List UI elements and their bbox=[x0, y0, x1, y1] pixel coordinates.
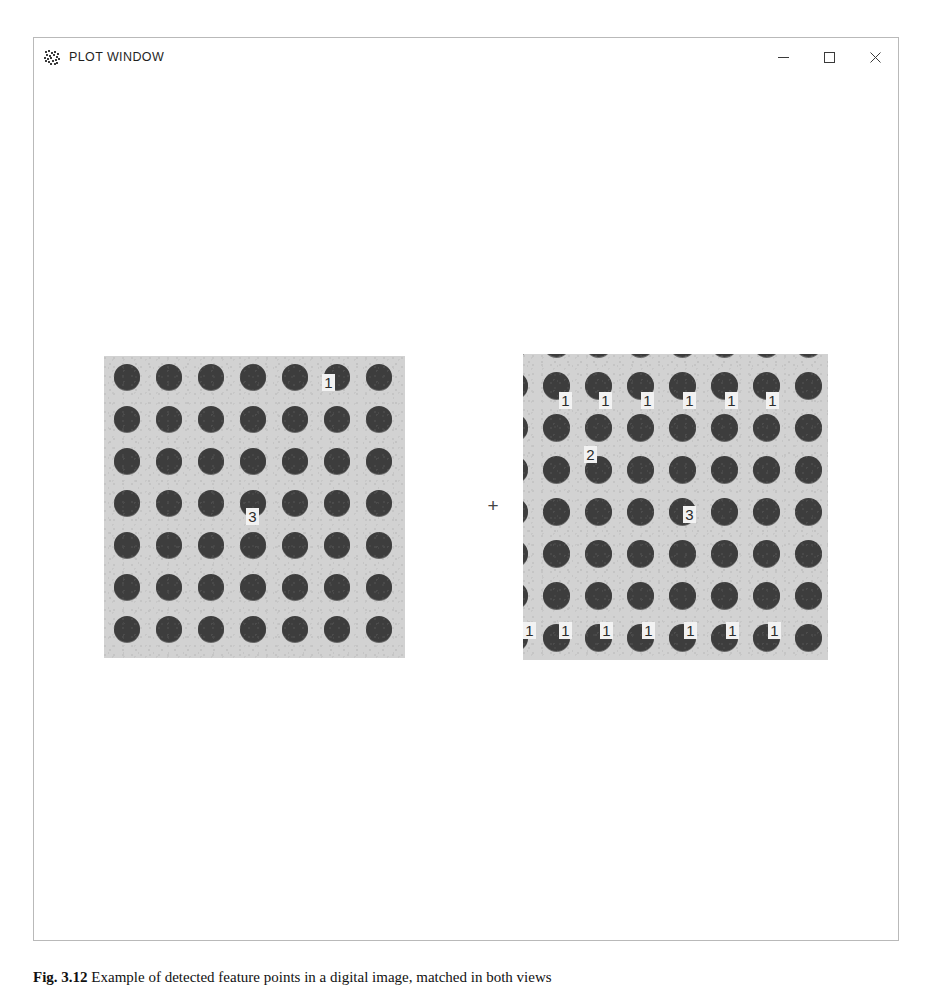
grid-dot bbox=[366, 532, 392, 558]
grid-dot bbox=[753, 582, 780, 609]
grid-dot bbox=[198, 574, 224, 600]
feature-marker: 1 bbox=[642, 622, 655, 639]
grid-dot bbox=[156, 616, 182, 642]
grid-dot bbox=[114, 616, 140, 642]
grid-dot bbox=[240, 406, 266, 432]
window-titlebar[interactable]: PLOT WINDOW bbox=[34, 38, 898, 76]
grid-dot bbox=[543, 414, 570, 441]
grid-dot bbox=[282, 574, 308, 600]
figure-number: Fig. 3.12 bbox=[33, 969, 88, 985]
grid-dot bbox=[282, 532, 308, 558]
grid-dot bbox=[156, 574, 182, 600]
figure-caption-text: Example of detected feature points in a … bbox=[91, 969, 551, 985]
grid-dot bbox=[585, 354, 612, 357]
feature-marker: 1 bbox=[322, 374, 335, 391]
feature-marker: 1 bbox=[559, 622, 572, 639]
grid-dot bbox=[753, 414, 780, 441]
grid-dot bbox=[366, 490, 392, 516]
reference-image-panel[interactable]: 13 bbox=[104, 356, 405, 658]
grid-dot bbox=[669, 540, 696, 567]
grid-dot bbox=[753, 498, 780, 525]
grid-dot bbox=[753, 456, 780, 483]
grid-dot bbox=[795, 414, 822, 441]
grid-dot bbox=[627, 498, 654, 525]
grid-dot bbox=[240, 574, 266, 600]
grid-dot bbox=[585, 582, 612, 609]
grid-dot bbox=[324, 406, 350, 432]
feature-marker: 1 bbox=[599, 392, 612, 409]
grid-dot bbox=[198, 448, 224, 474]
grid-dot bbox=[240, 364, 266, 390]
grid-dot bbox=[366, 364, 392, 390]
grid-dot bbox=[585, 540, 612, 567]
grid-dot bbox=[240, 532, 266, 558]
window-title: PLOT WINDOW bbox=[69, 50, 164, 64]
grid-dot bbox=[282, 364, 308, 390]
grid-dot bbox=[240, 448, 266, 474]
grid-dot bbox=[795, 582, 822, 609]
grid-dot bbox=[324, 490, 350, 516]
dot-grid-left bbox=[104, 356, 405, 658]
minimize-button[interactable] bbox=[760, 38, 806, 76]
grid-dot bbox=[543, 354, 570, 357]
grid-dot bbox=[324, 532, 350, 558]
grid-dot bbox=[366, 448, 392, 474]
grid-dot bbox=[627, 414, 654, 441]
close-button[interactable] bbox=[852, 38, 898, 76]
grid-dot bbox=[669, 354, 696, 357]
grid-dot bbox=[585, 498, 612, 525]
grid-dot bbox=[156, 532, 182, 558]
feature-marker: 3 bbox=[683, 506, 696, 523]
grid-dot bbox=[627, 456, 654, 483]
feature-marker: 3 bbox=[246, 508, 259, 525]
feature-marker: 1 bbox=[559, 392, 572, 409]
grid-dot bbox=[711, 456, 738, 483]
grid-dot bbox=[114, 490, 140, 516]
grid-dot bbox=[795, 372, 822, 399]
maximize-button[interactable] bbox=[806, 38, 852, 76]
grid-dot bbox=[282, 616, 308, 642]
grid-dot bbox=[114, 364, 140, 390]
grid-dot bbox=[523, 354, 528, 357]
grid-dot bbox=[711, 582, 738, 609]
window-controls bbox=[760, 38, 898, 76]
grid-dot bbox=[114, 532, 140, 558]
grid-dot bbox=[711, 498, 738, 525]
feature-marker: 1 bbox=[523, 622, 536, 639]
grid-dot bbox=[156, 490, 182, 516]
grid-dot bbox=[753, 540, 780, 567]
grid-dot bbox=[366, 406, 392, 432]
grid-dot bbox=[795, 498, 822, 525]
grid-dot bbox=[627, 582, 654, 609]
grid-dot bbox=[795, 456, 822, 483]
grid-dot bbox=[198, 364, 224, 390]
grid-dot bbox=[627, 540, 654, 567]
grid-dot bbox=[669, 582, 696, 609]
feature-marker: 1 bbox=[600, 622, 613, 639]
grid-dot bbox=[324, 448, 350, 474]
feature-marker: 2 bbox=[584, 446, 597, 463]
grid-dot bbox=[627, 354, 654, 357]
target-image-panel[interactable]: 111111231111111 bbox=[523, 354, 828, 660]
feature-marker: 1 bbox=[726, 622, 739, 639]
grid-dot bbox=[711, 354, 738, 357]
grid-dot bbox=[282, 448, 308, 474]
grid-dot bbox=[669, 456, 696, 483]
feature-marker: 1 bbox=[641, 392, 654, 409]
grid-dot bbox=[366, 616, 392, 642]
grid-dot bbox=[543, 498, 570, 525]
grid-dot bbox=[711, 540, 738, 567]
grid-dot bbox=[795, 540, 822, 567]
screenshot-root: PLOT WINDOW 13 + bbox=[0, 0, 932, 986]
grid-dot bbox=[366, 574, 392, 600]
grid-dot bbox=[523, 540, 528, 567]
grid-dot bbox=[114, 448, 140, 474]
grid-dot bbox=[543, 582, 570, 609]
plus-operator: + bbox=[483, 496, 503, 516]
grid-dot bbox=[156, 364, 182, 390]
plot-window: PLOT WINDOW 13 + bbox=[33, 37, 899, 941]
grid-dot bbox=[523, 582, 528, 609]
grid-dot bbox=[114, 406, 140, 432]
grid-dot bbox=[282, 406, 308, 432]
grid-dot bbox=[324, 574, 350, 600]
